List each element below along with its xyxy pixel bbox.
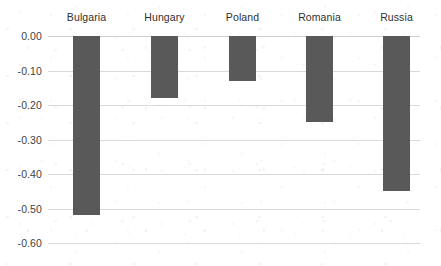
category-label-bulgaria: Bulgaria: [67, 11, 106, 23]
bar-bulgaria: [73, 36, 100, 215]
bar-russia: [383, 36, 410, 191]
gridline: [48, 105, 420, 106]
gridline: [48, 243, 420, 244]
category-label-poland: Poland: [226, 11, 259, 23]
gridline: [48, 209, 420, 210]
y-axis-tick-label: -0.50: [0, 203, 42, 215]
y-axis-tick-label: -0.20: [0, 99, 42, 111]
bar-poland: [229, 36, 256, 81]
y-axis-tick-label: -0.40: [0, 168, 42, 180]
bar-chart: 0.00 -0.10 -0.20 -0.30 -0.40 -0.50 -0.60…: [0, 0, 441, 266]
category-label-russia: Russia: [380, 11, 413, 23]
y-axis-tick-label: -0.10: [0, 65, 42, 77]
bar-romania: [306, 36, 333, 122]
y-axis-tick-label: -0.30: [0, 134, 42, 146]
plot-area: [48, 36, 420, 243]
bar-hungary: [151, 36, 178, 98]
gridline: [48, 174, 420, 175]
y-axis-tick-label: -0.60: [0, 237, 42, 249]
category-label-romania: Romania: [298, 11, 341, 23]
y-axis-tick-label: 0.00: [0, 30, 42, 42]
gridline: [48, 140, 420, 141]
category-label-hungary: Hungary: [144, 11, 184, 23]
